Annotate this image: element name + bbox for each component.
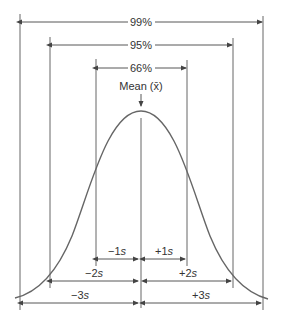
label-plus-1s: +1s [155, 245, 174, 257]
label-95-percent: 95% [130, 39, 152, 51]
label-mean: Mean (x̄) [119, 80, 162, 92]
normal-distribution-diagram: 99% 95% 66% Mean (x̄) −1s +1s −2s +2s −3… [0, 0, 284, 325]
label-99-percent: 99% [130, 16, 152, 28]
label-minus-3s: −3s [71, 289, 90, 301]
label-plus-3s: +3s [192, 289, 211, 301]
label-minus-2s: −2s [85, 267, 104, 279]
label-minus-1s: −1s [108, 245, 127, 257]
diagram-svg: 99% 95% 66% Mean (x̄) −1s +1s −2s +2s −3… [0, 0, 284, 325]
label-66-percent: 66% [130, 62, 152, 74]
label-plus-2s: +2s [179, 267, 198, 279]
